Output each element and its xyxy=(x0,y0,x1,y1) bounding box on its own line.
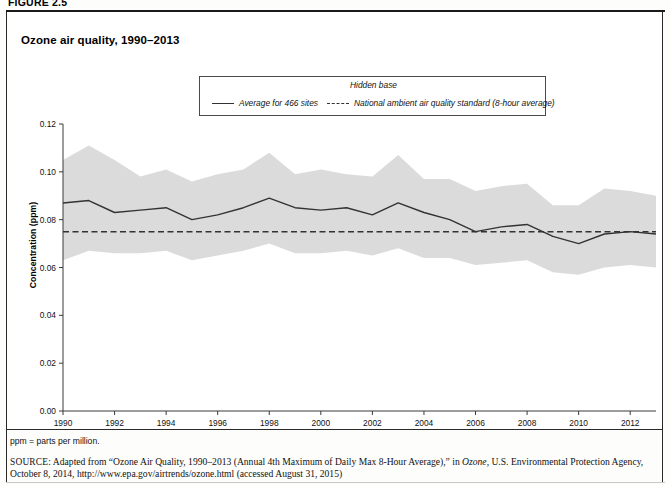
x-axis-tick-label: 2002 xyxy=(363,418,382,428)
figure-number: FIGURE 2.5 xyxy=(8,0,67,8)
y-axis-tick-label: 0.02 xyxy=(40,358,57,368)
y-axis-tick-label: 0.12 xyxy=(40,119,57,129)
x-axis-tick-label: 1994 xyxy=(157,418,176,428)
x-axis-tick-label: 2004 xyxy=(415,418,434,428)
x-axis-tick-label: 2006 xyxy=(466,418,485,428)
chart-panel: Ozone air quality, 1990–2013 Hidden base… xyxy=(6,12,663,430)
x-axis-tick-label: 1998 xyxy=(260,418,279,428)
x-axis-tick-label: 2008 xyxy=(518,418,537,428)
x-axis-tick-label: 1992 xyxy=(105,418,124,428)
y-axis-tick-label: 0.06 xyxy=(40,263,57,273)
y-axis-tick-label: 0.10 xyxy=(40,167,57,177)
x-axis-tick-label: 2012 xyxy=(621,418,640,428)
source-tag: SOURCE: xyxy=(10,457,51,467)
source-note: SOURCE: Adapted from “Ozone Air Quality,… xyxy=(10,456,660,481)
ppm-note: ppm = parts per million. xyxy=(10,436,100,446)
bottom-rule xyxy=(6,482,665,483)
x-axis-tick-label: 2010 xyxy=(569,418,588,428)
y-axis-tick-label: 0.08 xyxy=(40,215,57,225)
y-axis-tick-label: 0.04 xyxy=(40,310,57,320)
x-axis-tick-label: 2000 xyxy=(312,418,331,428)
panel-right-edge xyxy=(662,430,663,482)
source-publication-title: Ozone xyxy=(462,456,487,467)
source-text-part1: Adapted from “Ozone Air Quality, 1990–20… xyxy=(51,456,462,467)
figure-root: FIGURE 2.5 Ozone air quality, 1990–2013 … xyxy=(0,0,671,484)
plot-area: Concentration (ppm) 0.000.020.040.060.08… xyxy=(7,12,664,430)
y-axis-tick-label: 0.00 xyxy=(40,406,57,416)
ozone-line-chart: 0.000.020.040.060.080.100.12199019921994… xyxy=(7,12,664,430)
hidden-base-band xyxy=(63,146,656,275)
x-axis-tick-label: 1990 xyxy=(54,418,73,428)
x-axis-tick-label: 1996 xyxy=(208,418,227,428)
panel-left-edge xyxy=(6,430,7,482)
